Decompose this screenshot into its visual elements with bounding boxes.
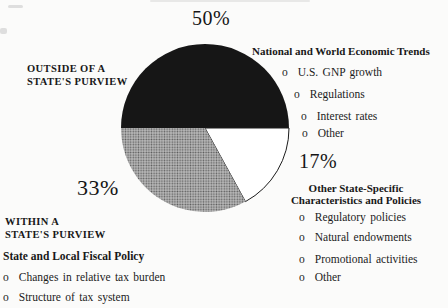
bullet-glyph: o <box>282 66 288 78</box>
scan-artifact <box>8 5 23 8</box>
scan-artifact <box>150 0 310 2</box>
bullet-natural-endowments: o Natural endowments <box>299 231 412 243</box>
figure-canvas: 50% 17% 33% OUTSIDE OF A STATE'S PURVIEW… <box>0 0 448 308</box>
slice-label-17pct: 17% <box>299 150 337 173</box>
bullet-other-national: o Other <box>302 127 344 139</box>
bullet-label: Other <box>318 127 344 139</box>
bullet-label: Changes in relative tax burden <box>19 271 166 283</box>
bullet-label: U.S. GNP growth <box>298 66 382 78</box>
bullet-label: Interest rates <box>317 110 378 122</box>
bullet-glyph: o <box>299 211 305 223</box>
bullet-glyph: o <box>299 271 305 283</box>
pie-svg <box>119 42 291 214</box>
slice-label-50pct: 50% <box>192 7 230 30</box>
bullet-structure-of-tax-system: o Structure of tax system <box>3 291 130 303</box>
bullet-promotional-activities: o Promotional activities <box>299 253 418 265</box>
bullet-glyph: o <box>3 291 9 303</box>
slice-label-33pct: 33% <box>77 175 119 201</box>
region-label-outside-purview: OUTSIDE OF A STATE'S PURVIEW <box>27 63 128 88</box>
bullet-us-gnp-growth: o U.S. GNP growth <box>282 66 382 78</box>
bullet-regulatory-policies: o Regulatory policies <box>299 211 406 223</box>
bullet-label: Natural endowments <box>315 231 412 243</box>
scan-artifact <box>0 28 7 34</box>
bullet-glyph: o <box>301 110 307 122</box>
bullet-label: Other <box>315 271 341 283</box>
region-label-within-purview: WITHIN A STATE'S PURVIEW <box>5 216 106 241</box>
heading-national-world-economic-trends: National and World Economic Trends <box>252 45 430 57</box>
heading-other-state-specific: Other State-Specific Characteristics and… <box>291 182 421 206</box>
bullet-regulations: o Regulations <box>294 88 365 100</box>
bullet-other-state-specific: o Other <box>299 271 341 283</box>
bullet-glyph: o <box>294 88 300 100</box>
bullet-glyph: o <box>302 127 308 139</box>
bullet-glyph: o <box>299 231 305 243</box>
bullet-label: Structure of tax system <box>19 291 130 303</box>
bullet-glyph: o <box>299 253 305 265</box>
bullet-changes-relative-tax-burden: o Changes in relative tax burden <box>3 271 165 283</box>
bullet-label: Regulatory policies <box>315 211 406 223</box>
bullet-glyph: o <box>3 271 9 283</box>
bullet-label: Promotional activities <box>315 253 418 265</box>
pie-chart <box>119 42 291 214</box>
heading-state-local-fiscal-policy: State and Local Fiscal Policy <box>3 250 144 262</box>
bullet-label: Regulations <box>310 88 365 100</box>
bullet-interest-rates: o Interest rates <box>301 110 377 122</box>
